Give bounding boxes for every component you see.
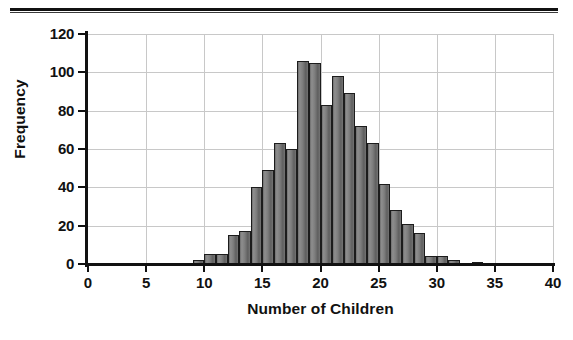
x-tick-mark-0 [87, 265, 89, 272]
y-tick-label-20: 20 [0, 217, 74, 235]
x-tick-mark-5 [145, 265, 147, 272]
bar-20 [321, 105, 333, 264]
y-tick-text: 100 [50, 63, 74, 80]
gridline-x-40 [553, 34, 554, 264]
x-tick-label-40: 40 [533, 274, 573, 291]
gridline-x-5 [146, 34, 147, 264]
y-tick-text: 120 [50, 25, 74, 42]
x-tick-label-30: 30 [417, 274, 457, 291]
gridline-x-30 [437, 34, 438, 264]
x-tick-mark-25 [378, 265, 380, 272]
x-tick-mark-10 [203, 265, 205, 272]
y-tick-label-60: 60 [0, 140, 74, 158]
bar-26 [390, 210, 402, 264]
gridline-x-35 [495, 34, 496, 264]
bar-22 [344, 93, 356, 264]
x-axis-title: Number of Children [88, 300, 553, 318]
y-tick-text: 60 [58, 140, 74, 157]
y-tick-text: 40 [58, 178, 74, 195]
plot-area [88, 34, 553, 264]
bar-16 [274, 143, 286, 264]
bar-23 [355, 126, 367, 264]
x-tick-label-15: 15 [242, 274, 282, 291]
x-tick-label-10: 10 [184, 274, 224, 291]
y-tick-label-0: 0 [0, 255, 74, 273]
x-tick-mark-20 [320, 265, 322, 272]
bar-27 [402, 224, 414, 264]
y-tick-label-100: 100 [0, 63, 74, 81]
bar-19 [309, 63, 321, 264]
bar-14 [251, 187, 263, 264]
x-tick-label-20: 20 [301, 274, 341, 291]
top-rule [10, 8, 558, 11]
bar-24 [367, 143, 379, 264]
bar-15 [262, 170, 274, 264]
x-tick-label-35: 35 [475, 274, 515, 291]
bar-21 [332, 76, 344, 264]
bar-12 [228, 235, 240, 264]
x-tick-label-25: 25 [359, 274, 399, 291]
y-tick-text: 20 [58, 217, 74, 234]
y-tick-text: 0 [66, 255, 74, 272]
y-tick-label-40: 40 [0, 178, 74, 196]
x-tick-mark-15 [261, 265, 263, 272]
bar-17 [286, 149, 298, 264]
y-tick-label-80: 80 [0, 102, 74, 120]
bar-13 [239, 231, 251, 264]
y-tick-label-120: 120 [0, 25, 74, 43]
histogram-figure: Frequency 020406080100120 05101520253035… [0, 0, 573, 340]
x-tick-label-0: 0 [68, 274, 108, 291]
y-tick-text: 80 [58, 102, 74, 119]
bar-25 [379, 184, 391, 265]
x-tick-mark-30 [436, 265, 438, 272]
bar-18 [297, 61, 309, 264]
gridline-x-10 [204, 34, 205, 264]
bar-28 [414, 233, 426, 264]
top-rule-secondary [10, 12, 558, 13]
x-tick-label-5: 5 [126, 274, 166, 291]
y-axis-line [85, 31, 88, 267]
x-tick-mark-40 [552, 265, 554, 272]
x-tick-mark-35 [494, 265, 496, 272]
